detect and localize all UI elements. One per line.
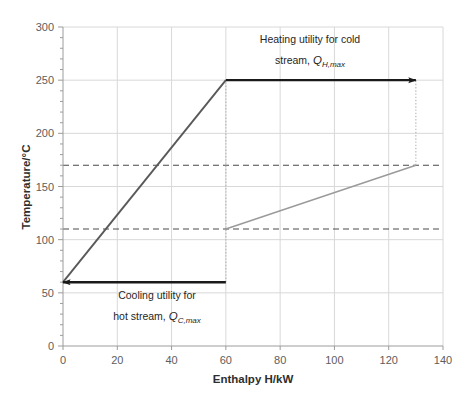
- heating-annotation-line1: Heating utility for cold: [260, 33, 361, 45]
- heating-annotation-subscript: H,max: [322, 60, 346, 69]
- x-tick-label: 100: [325, 354, 343, 366]
- y-tick-label: 0: [48, 340, 54, 352]
- cooling-annotation-subscript: C,max: [178, 316, 202, 325]
- x-axis-title: Enthalpy H/kW: [213, 373, 294, 385]
- y-tick-label: 150: [36, 181, 54, 193]
- y-tick-label: 300: [36, 21, 54, 33]
- x-tick-label: 140: [434, 354, 452, 366]
- heating-annotation-prefix: stream,: [275, 54, 313, 66]
- x-tick-label: 20: [111, 354, 123, 366]
- cooling-annotation-symbol: Q: [169, 310, 178, 322]
- y-tick-label: 250: [36, 74, 54, 86]
- cooling-annotation-line1: Cooling utility for: [118, 289, 196, 301]
- x-tick-label: 0: [60, 354, 66, 366]
- heating-annotation-symbol: Q: [313, 54, 322, 66]
- chart-canvas: 020406080100120140050100150200250300 Ent…: [0, 0, 467, 405]
- chart-background: [0, 0, 467, 405]
- y-tick-label: 200: [36, 127, 54, 139]
- y-tick-label: 100: [36, 234, 54, 246]
- x-tick-label: 120: [380, 354, 398, 366]
- cooling-annotation-prefix: hot stream,: [113, 310, 168, 322]
- x-tick-label: 60: [220, 354, 232, 366]
- y-axis-title: Temperature/°C: [20, 145, 32, 230]
- x-tick-label: 40: [165, 354, 177, 366]
- x-tick-label: 80: [274, 354, 286, 366]
- y-tick-label: 50: [42, 287, 54, 299]
- composite-curve-chart: 020406080100120140050100150200250300 Ent…: [0, 0, 467, 405]
